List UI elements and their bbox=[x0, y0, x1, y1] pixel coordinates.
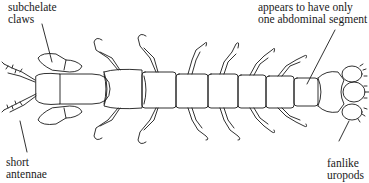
label-line: claws bbox=[8, 13, 57, 25]
label-abdominal-segment: appears to have only one abdominal segme… bbox=[258, 1, 367, 25]
label-line: fanlike bbox=[327, 157, 364, 169]
label-line: antennae bbox=[6, 168, 47, 180]
label-line: appears to have only bbox=[258, 1, 367, 13]
label-short-antennae: short antennae bbox=[6, 156, 47, 180]
legs-lower bbox=[94, 108, 307, 144]
head bbox=[36, 73, 110, 104]
body-segments bbox=[104, 69, 321, 108]
label-line: short bbox=[6, 156, 47, 168]
antennae bbox=[2, 62, 36, 112]
label-subchelate-claws: subchelate claws bbox=[8, 1, 57, 25]
leader-lines bbox=[20, 24, 349, 152]
label-line: subchelate bbox=[8, 1, 57, 13]
label-line: one abdominal segment bbox=[258, 13, 367, 25]
tail-uropods bbox=[318, 64, 369, 122]
label-fanlike-uropods: fanlike uropods bbox=[327, 157, 364, 181]
label-line: uropods bbox=[327, 169, 364, 181]
arthropod-drawing bbox=[0, 0, 369, 183]
